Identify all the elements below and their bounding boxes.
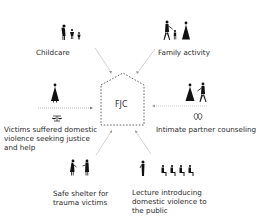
label-line: Safe shelter for — [53, 189, 108, 198]
diagram-canvas — [0, 0, 265, 217]
fjc-house-shape — [101, 73, 144, 125]
seated-person-icon — [162, 165, 167, 176]
family-walking-icon — [164, 21, 191, 41]
arrow-victims — [38, 107, 93, 110]
label-line: violence seeking justice — [4, 134, 90, 143]
label-line: Victims suffered domestic — [4, 125, 97, 134]
arrow-lecture — [135, 130, 151, 154]
couple-icon — [186, 83, 207, 102]
scales-of-justice-icon — [52, 116, 62, 121]
two-women-talking-icon — [70, 160, 89, 176]
label-line: Lecture introducing — [132, 188, 202, 197]
adult-with-children-icon — [62, 24, 81, 40]
label-family-activity: Family activity — [158, 48, 210, 57]
arrow-counseling — [152, 105, 207, 108]
label-childcare: Childcare — [36, 48, 70, 57]
arrow-shelter — [96, 130, 112, 155]
woman-silhouette-icon — [51, 84, 59, 103]
label-line: domestic violence to — [132, 197, 207, 206]
seated-person-icon — [180, 165, 185, 176]
fjc-label: FJC — [115, 100, 128, 109]
label-line: the public — [132, 206, 168, 215]
label-line: trauma victims — [53, 198, 107, 207]
arrow-childcare — [95, 48, 112, 74]
label-intimate-partner-counseling: Intimate partner counseling — [156, 125, 256, 134]
arrow-family-activity — [136, 49, 155, 74]
label-line: and help — [4, 143, 35, 152]
lecturer-with-audience-icon — [140, 161, 194, 177]
seated-person-icon — [189, 165, 194, 176]
two-hearts-icon — [194, 114, 202, 121]
seated-person-icon — [171, 165, 176, 176]
